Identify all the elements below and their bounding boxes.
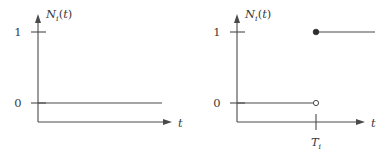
x-axis-label: t (178, 116, 183, 130)
figure-root: Ni(t) 1 0 t (0, 0, 389, 151)
y-axis-label: Ni(t) (45, 7, 72, 23)
chart-panel-right: Ni(t) 1 0 Ti t (195, 0, 389, 151)
x-axis-arrowhead (356, 119, 365, 125)
y-axis-arrowhead (35, 14, 41, 23)
y-tick-label-1: 1 (14, 25, 21, 39)
x-axis-label: t (371, 116, 376, 130)
filled-circle-marker (313, 29, 319, 35)
y-tick-label-1: 1 (213, 25, 220, 39)
y-tick-label-0: 0 (14, 96, 21, 110)
y-axis-label: Ni(t) (244, 7, 271, 23)
y-axis-label-paren-close: ) (68, 7, 73, 21)
counting-process-no-event-plot: Ni(t) 1 0 t (0, 0, 195, 151)
x-tick-label-Ti: Ti (311, 135, 322, 151)
counting-process-one-event-plot: Ni(t) 1 0 Ti t (195, 0, 389, 151)
y-axis-arrowhead (234, 14, 240, 23)
x-axis-arrowhead (163, 119, 172, 125)
x-tick-label-subscript: i (319, 142, 322, 151)
open-circle-marker (313, 100, 318, 105)
y-tick-label-0: 0 (213, 96, 220, 110)
chart-panel-left: Ni(t) 1 0 t (0, 0, 195, 151)
y-axis-label-paren-close: ) (267, 7, 272, 21)
